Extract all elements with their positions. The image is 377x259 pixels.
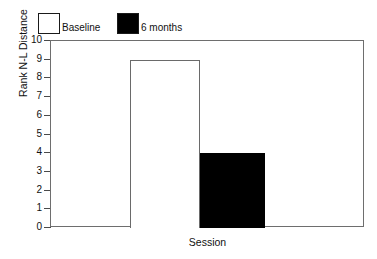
legend-label-baseline: Baseline	[62, 23, 100, 35]
y-axis-tick-label: 9	[20, 54, 42, 64]
chart-figure: Baseline 6 months Rank N-L Distance 0123…	[0, 0, 377, 259]
legend-swatch-6-months	[117, 13, 139, 34]
y-axis-tick	[44, 227, 51, 228]
y-axis-tick-label: 1	[20, 203, 42, 213]
x-axis-title-text: Session	[189, 236, 226, 248]
legend-entry-baseline: Baseline	[38, 11, 100, 35]
y-axis-tick-label: 2	[20, 185, 42, 195]
y-axis-tick-label: 0	[20, 222, 42, 232]
bar-6-months	[200, 153, 265, 228]
y-axis-tick-label: 5	[20, 129, 42, 139]
y-axis-tick-label: 7	[20, 91, 42, 101]
y-axis-tick-label: 8	[20, 72, 42, 82]
bar-baseline	[130, 60, 200, 228]
legend-swatch-baseline	[38, 13, 60, 34]
legend-label-6-months: 6 months	[141, 23, 182, 35]
y-axis-tick-label: 10	[20, 35, 42, 45]
y-axis-tick-label: 6	[20, 110, 42, 120]
plot-area	[50, 40, 364, 227]
y-axis-tick-label: 3	[20, 166, 42, 176]
x-axis-title: Session	[0, 236, 377, 248]
legend-entry-6-months: 6 months	[117, 11, 182, 35]
y-axis-tick-label: 4	[20, 147, 42, 157]
